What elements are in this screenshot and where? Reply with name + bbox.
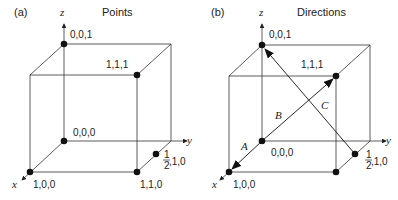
direction-vectors [232, 49, 355, 169]
y-axis-label-b: y [385, 134, 391, 146]
panel-b-tag: (b) [211, 6, 224, 18]
panel-a-points [27, 41, 160, 176]
vector-label-c: C [321, 99, 329, 111]
vector-label-a: A [240, 140, 248, 152]
svg-text:,1,0: ,1,0 [169, 156, 186, 167]
point-label-half10: 1 2 ,1,0 [163, 149, 186, 171]
point-label-001-b: 0,0,1 [269, 29, 292, 40]
point-label-100-b: 1,0,0 [233, 179, 256, 190]
vector-label-b: B [275, 109, 282, 121]
point-label-000-b: 0,0,0 [271, 147, 294, 158]
point-label-000: 0,0,0 [73, 127, 96, 138]
z-axis-label: z [59, 6, 65, 18]
z-axis-label-b: z [258, 6, 264, 18]
point-label-half10-b: 1 2 ,1,0 [365, 149, 388, 171]
point-label-100: 1,0,0 [33, 179, 56, 190]
point-label-111: 1,1,1 [106, 59, 129, 70]
x-axis-label-b: x [211, 178, 217, 190]
panel-a-title: Points [102, 6, 133, 18]
panel-a-tag: (a) [14, 6, 27, 18]
point-label-001: 0,0,1 [70, 29, 93, 40]
y-axis-label: y [186, 134, 192, 146]
crystal-diagram: (a) Points z y x 0,0,1 1,1,1 0,0,0 1,0,0… [0, 0, 398, 200]
svg-text:,1,0: ,1,0 [371, 156, 388, 167]
x-axis-label: x [11, 178, 17, 190]
panel-points [22, 24, 187, 180]
panel-b-title: Directions [297, 6, 346, 18]
point-label-111-b: 1,1,1 [301, 59, 324, 70]
point-label-110: 1,1,0 [140, 179, 163, 190]
